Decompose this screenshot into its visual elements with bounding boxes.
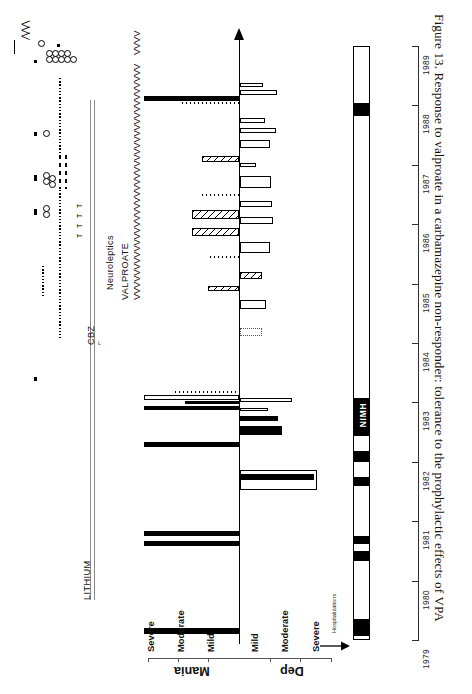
neuroleptics-label: Neuroleptics (105, 235, 115, 290)
neuroleptic-dotted-track (42, 266, 44, 296)
hospitalization-block-nimh: NIMH (354, 398, 369, 436)
depression-bar (240, 140, 270, 148)
medication-tracks: LITHIUM CBZ ⌐ VALPROATE VVVVVVVVVVVVVVVV… (0, 0, 132, 694)
depression-bar (240, 408, 268, 411)
scale-tick (270, 658, 271, 662)
mania-bar (144, 96, 239, 101)
time-axis-arrow-icon (234, 28, 244, 40)
year-label: 1980 (421, 580, 431, 620)
year-label: 1979 (421, 639, 431, 679)
neuroleptic-t-marker: T (76, 234, 83, 238)
hospitalization-pointer-arrow-icon (320, 640, 350, 652)
cbz-dose-marker: ⌐ (95, 341, 102, 346)
year-tick (412, 284, 419, 285)
neuroleptic-circle-mark (70, 56, 77, 63)
mania-bar (144, 406, 239, 410)
depression-bar (240, 201, 272, 207)
depression-bar (240, 426, 282, 435)
mania-bar (144, 395, 239, 400)
hospitalization-block (354, 477, 369, 486)
neuroleptic-circle-mark (38, 40, 45, 47)
depression-bar (240, 176, 271, 188)
scale-tick (331, 658, 332, 662)
mania-bar (144, 531, 239, 536)
depression-bar (240, 300, 266, 309)
year-tick (412, 581, 419, 582)
lithium-label: LITHIUM (82, 560, 92, 600)
mania-bar (202, 156, 239, 162)
depression-bar (240, 474, 314, 480)
mania-bar (192, 228, 239, 236)
hospitalization-block (354, 536, 369, 544)
year-tick (412, 521, 419, 522)
severity-scale: Severe Moderate Mild Mild Moderate Sever… (130, 600, 345, 694)
depression-bar (240, 398, 292, 402)
year-label: 1984 (421, 342, 431, 382)
year-tick (412, 462, 419, 463)
hospitalization-block (354, 551, 369, 561)
depression-bar (240, 272, 262, 279)
depression-bar (240, 118, 265, 123)
neuroleptic-underline (14, 40, 15, 54)
scale-tick (300, 658, 301, 662)
hospitalization-block (354, 451, 369, 462)
valproate-label: VALPROATE (120, 243, 130, 300)
mania-axis-group-label: Mania (174, 664, 210, 678)
dep-level-moderate: Moderate (279, 610, 290, 652)
neuroleptic-dose-mark (34, 377, 37, 381)
mood-life-chart (130, 28, 345, 658)
depression-bar (240, 163, 256, 167)
year-label: 1985 (421, 283, 431, 323)
depression-bar (240, 470, 317, 490)
depression-bar (240, 328, 262, 336)
year-tick (412, 105, 419, 106)
depression-bar (240, 90, 277, 95)
mania-bar (185, 401, 239, 404)
figure-caption: Figure 13. Response to valproate in a ca… (431, 14, 447, 622)
year-tick (412, 46, 419, 47)
scale-tick (208, 658, 209, 662)
hospitalization-block (354, 103, 369, 116)
year-label: 1987 (421, 164, 431, 204)
neuroleptic-t-marker: T (76, 214, 83, 218)
mania-level-moderate: Moderate (175, 610, 186, 652)
neuroleptic-dashed-track (59, 155, 61, 189)
year-tick (412, 165, 419, 166)
nimh-label: NIMH (358, 396, 368, 434)
year-label: 1988 (421, 104, 431, 144)
mania-bar (210, 256, 239, 258)
depression-bar (240, 242, 270, 253)
year-label: 1989 (421, 45, 431, 85)
hospitalization-block (354, 619, 369, 636)
year-tick (412, 224, 419, 225)
neuroleptic-t-marker: T (76, 204, 83, 208)
year-label: 1983 (421, 401, 431, 441)
figure-page: LITHIUM CBZ ⌐ VALPROATE VVVVVVVVVVVVVVVV… (0, 0, 472, 694)
neuroleptic-dose-mark (34, 60, 37, 63)
mania-scale-line (148, 658, 240, 659)
year-tick (412, 343, 419, 344)
neuroleptic-dashed-track (65, 155, 67, 189)
hospitalization-strip: NIMH (353, 46, 370, 640)
depression-bar (240, 217, 273, 224)
neuroleptic-t-marker: T (76, 224, 83, 228)
depression-bar (240, 83, 263, 87)
depression-bar (240, 416, 278, 421)
lithium-track-line-2 (94, 100, 95, 600)
mania-bar (144, 541, 239, 546)
mania-bar (208, 286, 239, 291)
scale-tick (148, 658, 149, 662)
dep-level-mild: Mild (249, 633, 260, 652)
mania-bar (144, 442, 239, 447)
hospitalizations-label: Hospitalizations (331, 594, 337, 633)
mania-bar (192, 210, 239, 219)
neuroleptic-dose-mark (34, 132, 37, 136)
neuroleptic-circle-mark (49, 181, 56, 188)
year-label: 1981 (421, 520, 431, 560)
mania-level-severe: Severe (145, 621, 156, 652)
neuroleptic-circle-mark (43, 211, 50, 218)
mania-bar (175, 391, 239, 393)
scale-tick (178, 658, 179, 662)
neuroleptic-taper-mark: ⋀⋀⋀ (20, 22, 30, 40)
cbz-track-line (59, 78, 61, 338)
